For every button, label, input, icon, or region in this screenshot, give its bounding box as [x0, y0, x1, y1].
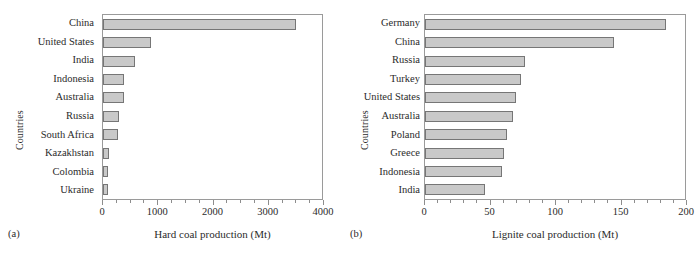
x-tick-label: 200 — [678, 205, 694, 218]
bar-row — [425, 162, 685, 180]
bar-row — [103, 107, 322, 125]
category-label: China — [356, 33, 424, 52]
panel-a-caption: (a) — [8, 228, 20, 239]
x-minor-tick — [647, 200, 648, 203]
x-minor-tick — [476, 200, 477, 203]
x-minor-tick — [295, 200, 296, 203]
category-label: Greece — [356, 144, 424, 163]
x-minor-tick — [594, 200, 595, 203]
bar-row — [425, 144, 685, 162]
bar — [425, 37, 614, 48]
bar-row — [103, 125, 322, 143]
x-minor-tick — [450, 200, 451, 203]
bar-row — [103, 15, 322, 33]
panel-b-caption: (b) — [350, 228, 362, 239]
bar-row — [103, 70, 322, 88]
panel-b-x-axis-title: Lignite coal production (Mt) — [424, 228, 686, 240]
bar — [425, 19, 666, 30]
x-minor-tick — [503, 200, 504, 203]
category-label: China — [18, 14, 98, 33]
panel-b-lignite-coal: Countries GermanyChinaRussiaTurkeyUnited… — [348, 0, 696, 258]
x-minor-tick — [282, 200, 283, 203]
x-minor-tick — [516, 200, 517, 203]
category-label: Indonesia — [356, 163, 424, 182]
bar-row — [425, 33, 685, 51]
x-minor-tick — [130, 200, 131, 203]
bar — [425, 111, 513, 122]
category-label: India — [356, 181, 424, 200]
category-label: Russia — [18, 107, 98, 126]
category-label: United States — [356, 88, 424, 107]
panel-a-bars — [103, 15, 322, 199]
x-minor-tick — [673, 200, 674, 203]
bar — [425, 56, 525, 67]
bar — [103, 74, 124, 85]
x-minor-tick — [240, 200, 241, 203]
category-label: Colombia — [18, 163, 98, 182]
category-label: Russia — [356, 51, 424, 70]
bar — [103, 19, 296, 30]
bar — [425, 129, 507, 140]
category-label: Turkey — [356, 70, 424, 89]
x-tick-label: 4000 — [313, 205, 334, 218]
x-minor-tick — [309, 200, 310, 203]
panel-b-plot-area — [424, 14, 686, 200]
bar — [425, 184, 485, 195]
panel-a-plot-area — [102, 14, 323, 200]
x-tick-label: 150 — [613, 205, 629, 218]
x-minor-tick — [607, 200, 608, 203]
bar — [103, 111, 119, 122]
bar-row — [425, 89, 685, 107]
x-minor-tick — [634, 200, 635, 203]
bar — [103, 56, 135, 67]
panel-a-x-axis-title: Hard coal production (Mt) — [102, 228, 323, 240]
category-label: Indonesia — [18, 70, 98, 89]
bar-row — [425, 15, 685, 33]
bar-row — [103, 52, 322, 70]
bar — [425, 74, 521, 85]
x-minor-tick — [254, 200, 255, 203]
panel-b-category-labels: GermanyChinaRussiaTurkeyUnited StatesAus… — [356, 14, 424, 200]
x-minor-tick — [199, 200, 200, 203]
panel-b-bars — [425, 15, 685, 199]
bar-row — [425, 70, 685, 88]
x-minor-tick — [116, 200, 117, 203]
category-label: India — [18, 51, 98, 70]
bar-row — [103, 33, 322, 51]
bar — [103, 129, 118, 140]
x-tick-label: 0 — [421, 205, 426, 218]
x-minor-tick — [568, 200, 569, 203]
bar-row — [425, 107, 685, 125]
bar-row — [103, 181, 322, 199]
bar-row — [425, 181, 685, 199]
bar — [425, 92, 516, 103]
x-minor-tick — [437, 200, 438, 203]
bar — [103, 92, 124, 103]
x-minor-tick — [529, 200, 530, 203]
category-label: Australia — [356, 107, 424, 126]
category-label: Ukraine — [18, 181, 98, 200]
x-minor-tick — [581, 200, 582, 203]
bar — [103, 148, 109, 159]
bar — [103, 166, 108, 177]
x-minor-tick — [185, 200, 186, 203]
x-minor-tick — [143, 200, 144, 203]
category-label: United States — [18, 33, 98, 52]
bar — [425, 166, 502, 177]
coal-production-figure: Countries ChinaUnited StatesIndiaIndones… — [0, 0, 696, 258]
bar-row — [103, 144, 322, 162]
x-minor-tick — [226, 200, 227, 203]
bar — [425, 148, 504, 159]
x-minor-tick — [171, 200, 172, 203]
panel-b-x-tick-labels: 050100150200 — [424, 205, 686, 219]
panel-a-category-labels: ChinaUnited StatesIndiaIndonesiaAustrali… — [18, 14, 98, 200]
x-tick-label: 50 — [484, 205, 495, 218]
bar — [103, 184, 108, 195]
panel-a-hard-coal: Countries ChinaUnited StatesIndiaIndones… — [0, 0, 348, 258]
category-label: South Africa — [18, 126, 98, 145]
x-minor-tick — [463, 200, 464, 203]
x-tick-label: 1000 — [147, 205, 168, 218]
panel-a-x-tick-labels: 01000200030004000 — [102, 205, 323, 219]
x-tick-label: 2000 — [202, 205, 223, 218]
category-label: Kazakhstan — [18, 144, 98, 163]
